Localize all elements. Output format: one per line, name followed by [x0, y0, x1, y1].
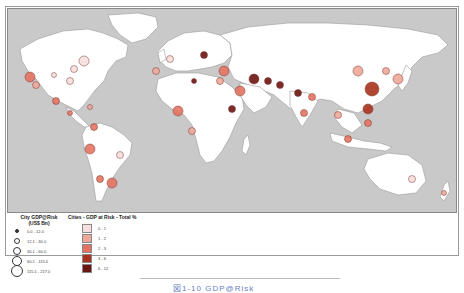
land-south-america — [82, 123, 132, 201]
city-bubble — [383, 68, 390, 75]
size-legend-item: 0.0 - 12.0 — [10, 226, 68, 236]
caption-divider — [140, 278, 340, 279]
swatch-icon — [82, 254, 92, 263]
swatch-icon — [82, 244, 92, 253]
swatch-icon — [82, 224, 92, 233]
city-bubble — [85, 144, 95, 154]
color-legend-item: 2 - 3 — [82, 243, 158, 253]
city-bubble — [67, 78, 74, 85]
city-bubble — [53, 98, 60, 105]
city-bubble — [117, 152, 124, 159]
city-bubble — [79, 56, 89, 66]
circle-icon — [15, 229, 19, 233]
city-bubble — [365, 82, 379, 96]
city-bubble — [249, 74, 259, 84]
city-bubble — [309, 94, 316, 101]
city-bubble — [353, 66, 363, 76]
city-bubble — [25, 72, 35, 82]
land-australia — [364, 153, 426, 195]
city-bubble — [68, 111, 73, 116]
size-legend: City GDP@Risk (US$ Bn) 0.0 - 12.0 12.1 -… — [10, 214, 68, 276]
city-bubble — [192, 79, 197, 84]
swatch-icon — [82, 234, 92, 243]
circle-icon — [14, 238, 20, 244]
land-europe — [158, 31, 232, 71]
city-bubble — [201, 52, 208, 59]
map-canvas — [8, 9, 456, 212]
city-bubble — [442, 191, 447, 196]
city-bubble — [167, 56, 174, 63]
size-legend-item: 12.1 - 30.0 — [10, 236, 68, 246]
color-legend-item: 1 - 2 — [82, 233, 158, 243]
city-bubble — [52, 73, 57, 78]
figure-caption: 図1-10 GDP@Risk — [173, 282, 254, 293]
land-madagascar — [242, 135, 250, 155]
size-legend-item: 115.1 - 217.0 — [10, 266, 68, 276]
city-bubble — [153, 68, 160, 75]
city-bubble — [365, 120, 372, 127]
swatch-icon — [82, 264, 92, 273]
city-bubble — [409, 176, 416, 183]
city-bubble — [71, 66, 78, 73]
city-bubble — [88, 105, 93, 110]
land-indonesia — [330, 133, 392, 151]
city-bubble — [91, 124, 98, 131]
color-legend-item: 6 - 12 — [82, 263, 158, 273]
color-legend: Cities - GDP at Risk - Total % 0 - 1 1 -… — [68, 214, 158, 273]
color-legend-item: 3 - 6 — [82, 253, 158, 263]
size-legend-item: 30.1 - 60.0 — [10, 246, 68, 256]
city-bubble — [265, 78, 272, 85]
city-bubble — [219, 66, 229, 76]
city-bubble — [235, 86, 245, 96]
city-bubble — [33, 82, 40, 89]
city-bubble — [277, 82, 284, 89]
city-bubble — [345, 136, 352, 143]
world-map — [7, 8, 457, 213]
city-bubble — [217, 78, 224, 85]
land-africa — [156, 73, 244, 163]
city-bubble — [189, 128, 196, 135]
circle-icon — [13, 247, 21, 255]
city-bubble — [393, 74, 403, 84]
city-bubble — [107, 178, 117, 188]
circle-icon — [11, 265, 23, 277]
city-bubble — [229, 106, 236, 113]
city-bubble — [295, 90, 302, 97]
city-bubble — [97, 176, 104, 183]
city-bubble — [173, 106, 183, 116]
city-bubble — [301, 110, 308, 117]
city-bubble — [363, 104, 373, 114]
city-bubble — [335, 112, 342, 119]
color-legend-item: 0 - 1 — [82, 223, 158, 233]
